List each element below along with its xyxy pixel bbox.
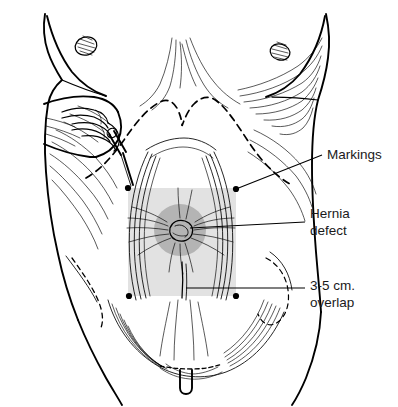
corner-dot-top-left bbox=[125, 185, 131, 191]
sternum-striations bbox=[140, 38, 240, 110]
label-markings: Markings bbox=[327, 147, 382, 162]
label-hernia-defect-line2: defect bbox=[310, 223, 347, 238]
leader-line-markings bbox=[236, 155, 322, 189]
oblique-striations-left bbox=[50, 106, 117, 249]
corner-dot-bottom-right bbox=[233, 293, 239, 299]
labels-group: Markings Hernia defect 3-5 cm. overlap bbox=[310, 147, 382, 310]
nipple-left bbox=[73, 34, 99, 58]
label-overlap-line2: overlap bbox=[310, 295, 354, 310]
oblique-striations-right bbox=[238, 38, 322, 221]
medical-illustration-figure: Markings Hernia defect 3-5 cm. overlap bbox=[0, 0, 398, 407]
corner-dot-bottom-left bbox=[126, 293, 132, 299]
nipple-right bbox=[268, 42, 292, 63]
label-overlap-line1: 3-5 cm. bbox=[310, 278, 355, 293]
label-hernia-defect-line1: Hernia bbox=[310, 206, 350, 221]
